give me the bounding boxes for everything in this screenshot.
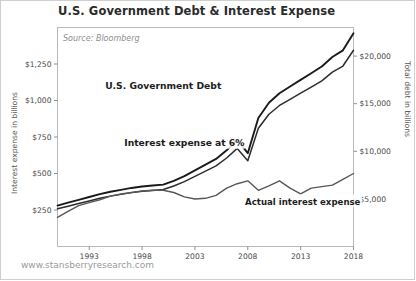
source-note: Source: Bloomberg	[63, 34, 140, 43]
y-tick-label-right: $5,000	[360, 195, 387, 204]
y-tick-label-left: $500	[32, 169, 51, 178]
y-axis-right-title: Total debt in billions	[403, 60, 412, 137]
y-tick-label-left: $250	[32, 206, 51, 215]
series-lines	[58, 33, 354, 217]
y-tick-label-left: $1,000	[25, 96, 52, 105]
y-axis-left-ticks: $250$500$750$1,000$1,250	[25, 60, 58, 215]
y-tick-label-right: $10,000	[360, 147, 392, 156]
x-axis-ticks: 199319982003200820132018	[80, 247, 364, 261]
chart-canvas: 199319982003200820132018 $250$500$750$1,…	[1, 1, 416, 281]
series-annotations: U.S. Government DebtInterest expense at …	[105, 78, 362, 207]
y-tick-label-right: $20,000	[360, 52, 392, 61]
y-tick-label-left: $750	[32, 133, 51, 142]
y-tick-label-left: $1,250	[25, 60, 52, 69]
x-tick-label: 2003	[185, 252, 204, 261]
annotation-label: Interest expense at 6%	[124, 137, 244, 148]
y-axis-left-title: Interest expense in billions	[10, 92, 19, 194]
series-line-1	[58, 33, 354, 205]
annotation-label: Actual interest expense	[245, 197, 361, 207]
x-tick-label: 2008	[238, 252, 257, 261]
annotation-label: U.S. Government Debt	[105, 80, 222, 91]
y-axis-right-ticks: $5,000$10,000$15,000$20,000	[354, 52, 392, 204]
x-tick-label: 2013	[291, 252, 310, 261]
footer-url: www.stansberryresearch.com	[21, 260, 154, 270]
y-tick-label-right: $15,000	[360, 99, 392, 108]
chart-frame: U.S. Government Debt & Interest Expense …	[0, 0, 415, 280]
x-tick-label: 2018	[344, 252, 363, 261]
